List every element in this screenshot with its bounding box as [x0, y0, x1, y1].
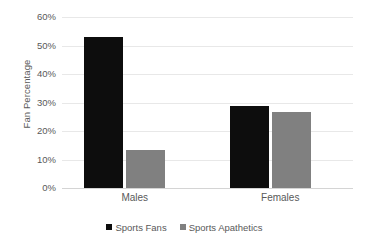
gridline-0 — [62, 188, 353, 189]
legend-label: Sports Apathetics — [189, 222, 263, 233]
y-axis-tick-label: 20% — [10, 126, 56, 136]
gridline-60 — [62, 17, 353, 18]
legend-swatch-sports-fans — [106, 224, 112, 230]
y-axis-tick-label: 40% — [10, 69, 56, 79]
legend-label: Sports Fans — [115, 222, 166, 233]
chart-legend: Sports FansSports Apathetics — [0, 219, 369, 235]
y-axis-tick-label: 30% — [10, 98, 56, 108]
x-axis-label-males: Males — [62, 191, 208, 205]
bar-females-sports-apathetics — [272, 112, 311, 188]
y-axis-tick-label: 60% — [10, 12, 56, 22]
x-axis-category-labels: MalesFemales — [62, 191, 353, 207]
x-axis-label-females: Females — [208, 191, 354, 205]
bar-females-sports-fans — [230, 106, 269, 188]
legend-item-sports-fans[interactable]: Sports Fans — [106, 222, 166, 233]
y-axis-tick-label: 10% — [10, 155, 56, 165]
bar-chart: Fan Percentage 0%10%20%30%40%50%60% Male… — [0, 0, 369, 241]
y-axis-tick-label: 0% — [10, 183, 56, 193]
plot-area — [62, 17, 353, 188]
y-axis-tick-labels: 0%10%20%30%40%50%60% — [8, 17, 56, 188]
bar-males-sports-fans — [84, 37, 123, 188]
legend-swatch-sports-apathetics — [180, 224, 186, 230]
y-axis-tick-label: 50% — [10, 41, 56, 51]
legend-item-sports-apathetics[interactable]: Sports Apathetics — [180, 222, 263, 233]
bar-males-sports-apathetics — [126, 150, 165, 188]
